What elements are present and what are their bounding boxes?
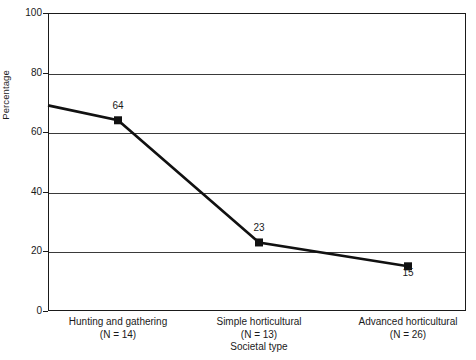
y-tick-label-0: 0 — [4, 306, 42, 316]
series-polyline — [48, 105, 408, 266]
y-tick-label-40: 40 — [4, 187, 42, 197]
y-tick-label-80: 80 — [4, 68, 42, 78]
y-tick-label-60: 60 — [4, 127, 42, 137]
x-category-1: Hunting and gathering (N = 14) — [43, 316, 193, 341]
x-category-2: Simple horticultural (N = 13) — [184, 316, 334, 341]
data-point-marker-1 — [114, 116, 122, 124]
chart-container: Percentage 100 80 60 40 20 0 64 23 15 Hu… — [0, 0, 476, 360]
data-label-1: 64 — [103, 101, 133, 111]
data-label-3: 15 — [393, 268, 423, 278]
y-tick-label-20: 20 — [4, 246, 42, 256]
x-category-1-count: (N = 14) — [43, 329, 193, 342]
y-tick-label-100: 100 — [4, 8, 42, 18]
x-axis-title: Societal type — [184, 341, 334, 353]
data-point-marker-2 — [255, 238, 263, 246]
x-category-3-count: (N = 26) — [333, 329, 476, 342]
y-tick-mark-0 — [43, 311, 48, 312]
y-axis-ticks: 100 80 60 40 20 0 — [0, 0, 42, 360]
x-category-1-name: Hunting and gathering — [69, 316, 167, 327]
x-category-2-count: (N = 13) — [184, 329, 334, 342]
x-category-3-name: Advanced horticultural — [359, 316, 458, 327]
data-label-2: 23 — [244, 223, 274, 233]
x-category-3: Advanced horticultural (N = 26) — [333, 316, 476, 341]
x-category-2-name: Simple horticultural — [216, 316, 301, 327]
